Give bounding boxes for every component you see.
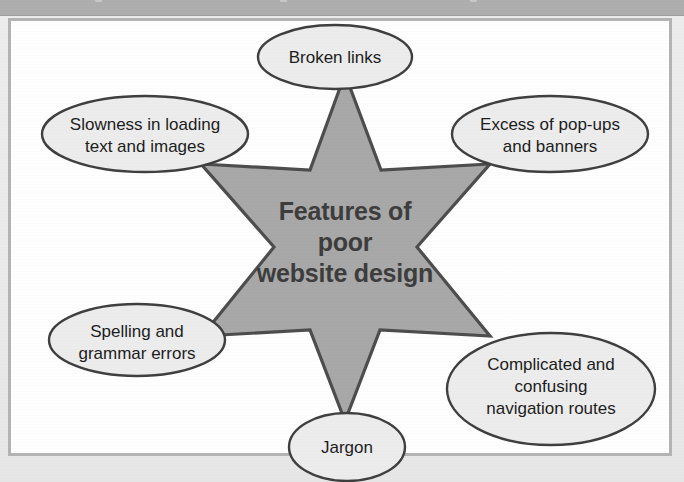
node-broken-links[interactable]: Broken links bbox=[258, 25, 412, 89]
node-complicated-navigation[interactable]: Complicated and confusing navigation rou… bbox=[447, 333, 655, 445]
node-excess-popups-label-line-1: Excess of pop-ups bbox=[480, 115, 620, 134]
node-slowness-loading-label-line-2: text and images bbox=[85, 137, 205, 156]
page-root: Features of poor website design Broken l… bbox=[0, 0, 684, 482]
center-label-line-3: website design bbox=[256, 259, 433, 287]
node-slowness-loading-ellipse[interactable] bbox=[42, 96, 248, 172]
node-excess-popups[interactable]: Excess of pop-ups and banners bbox=[452, 96, 648, 172]
node-slowness-loading[interactable]: Slowness in loading text and images bbox=[42, 96, 248, 172]
node-jargon[interactable]: Jargon bbox=[289, 413, 405, 481]
center-label-line-2: poor bbox=[318, 228, 373, 256]
node-spelling-grammar[interactable]: Spelling and grammar errors bbox=[49, 304, 225, 376]
node-spelling-grammar-label-line-1: Spelling and bbox=[90, 322, 184, 341]
node-excess-popups-label-line-2: and banners bbox=[503, 137, 598, 156]
node-spelling-grammar-label-line-2: grammar errors bbox=[78, 344, 195, 363]
center-label-line-1: Features of bbox=[279, 197, 412, 225]
node-complicated-navigation-label-line-3: navigation routes bbox=[486, 399, 615, 418]
node-broken-links-label: Broken links bbox=[289, 48, 382, 67]
node-jargon-label: Jargon bbox=[321, 438, 373, 457]
node-excess-popups-ellipse[interactable] bbox=[452, 96, 648, 172]
node-slowness-loading-label-line-1: Slowness in loading bbox=[70, 115, 220, 134]
node-complicated-navigation-label-line-2: confusing bbox=[515, 377, 588, 396]
node-complicated-navigation-label-line-1: Complicated and bbox=[487, 355, 615, 374]
star-diagram: Features of poor website design Broken l… bbox=[0, 0, 684, 482]
